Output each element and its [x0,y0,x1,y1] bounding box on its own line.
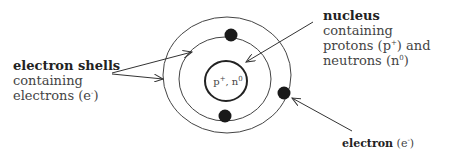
nucleus-n-sup: 0 [238,75,242,83]
nucleus-arrow [246,22,313,62]
nucleus-label: nucleus containing protons (p+) and neut… [323,8,451,68]
electron-label-bold: electron [342,137,393,150]
nucleus-label-close: ) [404,53,409,68]
nucleus-label-protons: protons (p [323,38,391,53]
nucleus-label-and: ) and [397,38,431,53]
nucleus-label-bold: nucleus [323,8,380,23]
shells-label-bold: electron shells [13,58,120,73]
nucleus-label-neutrons: neutrons (n [323,53,399,68]
electron-dot-bottom [219,110,232,123]
shells-label-containing: containing [13,73,123,88]
shells-label-close: ) [93,88,98,103]
nucleus-label-rest: containing [323,23,393,38]
electron-label-rest: (e [393,137,407,150]
shells-label: electron shells containing electrons (e-… [13,58,123,103]
shells-label-electrons: electrons (e [13,88,91,103]
electron-dot-right [278,87,291,100]
electron-label-close: ) [410,137,414,150]
electron-arrow [292,98,352,131]
nucleus-n: , n [226,76,239,87]
electron-dot-top [225,29,238,42]
nucleus-inner-text: p+, n0 [211,74,245,89]
electron-label: electron (e-) [342,136,442,151]
